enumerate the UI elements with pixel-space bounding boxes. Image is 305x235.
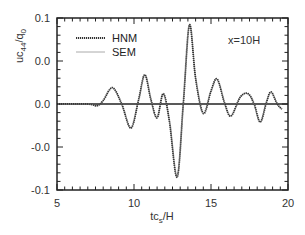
y-axis-label-mid: /q	[13, 33, 25, 42]
legend: HNM SEM	[76, 32, 137, 58]
y-tick-label: 0.0	[35, 55, 50, 67]
annotation-label: x=10H	[228, 34, 260, 46]
series-sem-line	[57, 25, 282, 178]
x-axis-label-tail: /H	[163, 210, 174, 222]
y-axis-label-sub2: 0	[19, 28, 28, 33]
series-hnm-line	[57, 25, 282, 178]
legend-sem-label: SEM	[112, 46, 136, 58]
y-tick-label: 0.0	[35, 98, 50, 110]
x-tick-label: 20	[282, 197, 294, 209]
chart: 51015200.10.00.0-0.0-0.1 HNM SEM x=10H t…	[0, 0, 305, 235]
y-tick-label: 0.1	[35, 12, 50, 24]
y-tick-label: -0.1	[31, 184, 50, 196]
y-axis-label-main: uc	[13, 51, 25, 63]
x-tick-label: 15	[205, 197, 217, 209]
legend-hnm-label: HNM	[112, 32, 137, 44]
x-tick-label: 10	[128, 197, 140, 209]
x-axis-label: tcs/H	[150, 210, 174, 225]
x-tick-label: 5	[54, 197, 60, 209]
y-tick-label: -0.0	[31, 141, 50, 153]
y-axis-label: uc44/q0	[13, 28, 28, 63]
